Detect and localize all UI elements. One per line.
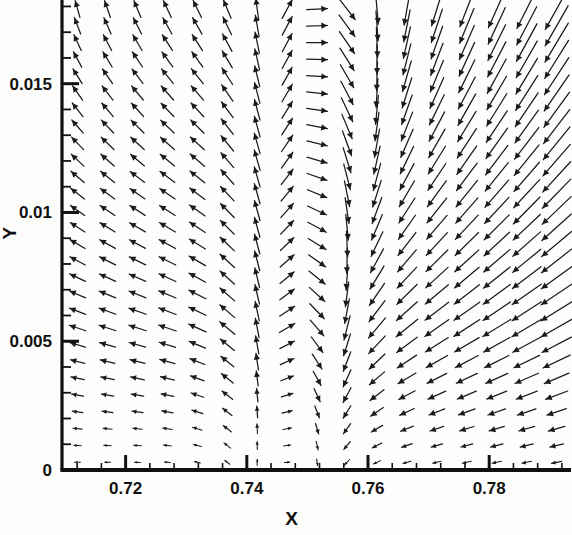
y-tick-label: 0 <box>43 461 52 480</box>
x-axis-label: X <box>285 508 298 529</box>
x-tick-label: 0.72 <box>109 479 142 498</box>
y-axis-label: Y <box>0 226 20 239</box>
x-tick-label: 0.78 <box>473 479 506 498</box>
y-tick-label: 0.005 <box>9 332 52 351</box>
plot-canvas: 0.720.740.760.7800.0050.010.015 X Y <box>0 0 572 535</box>
y-tick-label: 0.015 <box>9 75 52 94</box>
x-tick-label: 0.74 <box>230 479 264 498</box>
y-tick-label: 0.01 <box>19 203 52 222</box>
x-tick-label: 0.76 <box>351 479 384 498</box>
vector-field-plot: 0.720.740.760.7800.0050.010.015 X Y <box>0 0 572 535</box>
